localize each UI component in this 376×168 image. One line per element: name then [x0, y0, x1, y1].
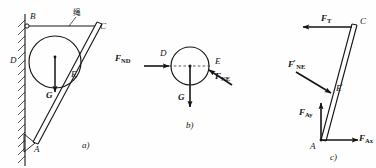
label-point-c-a: C	[100, 22, 106, 31]
label-point-e-prime-c: E′	[336, 84, 343, 93]
point-a-node-c	[320, 139, 323, 142]
panel-c-geometry	[296, 24, 358, 141]
label-rope-cjk: 绳	[73, 6, 80, 17]
label-point-c-c: C	[360, 17, 366, 26]
rod-ac-end-c-top	[352, 24, 357, 25]
figure-vector-layer	[0, 0, 376, 168]
label-force-fnd: FND	[115, 54, 130, 63]
label-weight-a: G	[46, 91, 53, 100]
label-point-e-a: E	[71, 70, 77, 79]
label-point-d-b: D	[160, 49, 167, 58]
caption-panel-b: b)	[186, 120, 194, 130]
label-point-a-c: A	[310, 142, 316, 151]
label-force-fne: FNE	[215, 72, 230, 81]
label-point-a-a: A	[34, 145, 40, 154]
rope-label-leader	[69, 17, 76, 26]
rod-ac-edge1	[33, 22, 97, 142]
label-point-d-a: D	[10, 56, 17, 65]
caption-panel-c: c)	[330, 152, 337, 162]
label-force-fax: FAx	[359, 134, 373, 143]
label-point-e-b: E	[215, 57, 221, 66]
cylinder-center-a	[54, 56, 57, 59]
label-weight-b: G	[178, 93, 185, 102]
label-point-b: B	[30, 12, 36, 21]
rod-ac-edge1-c	[321, 24, 352, 140]
pin-b	[25, 24, 29, 28]
label-force-fay: FAy	[299, 108, 312, 117]
force-fne-prime-arrow	[296, 72, 331, 93]
caption-panel-a: a)	[82, 140, 90, 150]
label-force-ft: FT	[321, 14, 331, 23]
figure-canvas: B 绳 C D E G A a) FND D E FNE G b) FT C F…	[0, 0, 376, 168]
label-force-fne-prime: F′NE	[288, 60, 305, 69]
rod-ac-edge2	[38, 24, 102, 144]
